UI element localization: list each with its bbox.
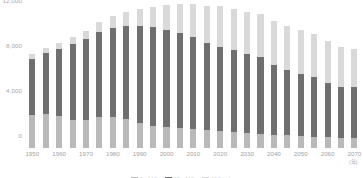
bar-segment-children: [217, 131, 223, 148]
x-axis-tick-cell: [202, 149, 211, 161]
bar-segment-working-age: [70, 44, 76, 119]
legend-swatch: [165, 177, 172, 178]
bar-segment-elderly: [338, 47, 344, 87]
population-stacked-bar-chart: 04,0008,00012,000 1950196019701980199020…: [0, 0, 363, 178]
stacked-bar: [177, 4, 183, 148]
bar-segment-children: [257, 134, 263, 148]
stacked-bar: [56, 43, 62, 148]
x-axis-tick-cell: 1960: [55, 149, 64, 161]
bar-segment-elderly: [137, 9, 143, 26]
x-axis-tick-cell: 2050: [296, 149, 305, 161]
bar-segment-children: [163, 127, 169, 148]
bar-column: [176, 13, 185, 148]
bar-segment-children: [150, 126, 156, 149]
bar-segment-elderly: [163, 5, 169, 30]
x-axis-tick-cell: 2060: [323, 149, 332, 161]
stacked-bar: [123, 12, 129, 148]
stacked-bar: [150, 7, 156, 148]
bar-segment-working-age: [325, 83, 331, 137]
stacked-bar: [325, 41, 331, 148]
bar-segment-elderly: [217, 6, 223, 47]
x-axis-unit-label: (年): [349, 158, 358, 166]
bar-segment-working-age: [96, 32, 102, 117]
bar-column: [296, 13, 305, 148]
bar-segment-children: [325, 137, 331, 148]
x-axis-tick-cell: [95, 149, 104, 161]
bar-column: [68, 13, 77, 148]
x-axis-tick-cell: [337, 149, 346, 161]
stacked-bar: [351, 49, 357, 148]
x-axis-tick-label: 2020: [213, 150, 227, 157]
stacked-bar: [231, 9, 237, 148]
bar-segment-working-age: [244, 54, 250, 134]
y-axis-tick: 4,000: [0, 87, 22, 94]
stacked-bar: [204, 6, 210, 148]
x-axis-tick-label: 2050: [294, 150, 308, 157]
stacked-bar: [217, 6, 223, 148]
bar-segment-working-age: [284, 70, 290, 135]
bar-segment-children: [190, 129, 196, 148]
x-axis-tick-label: 1990: [133, 150, 147, 157]
bar-segment-children: [70, 120, 76, 148]
bar-segment-elderly: [150, 7, 156, 28]
stacked-bar: [163, 5, 169, 148]
x-axis-tick-cell: [149, 149, 158, 161]
bar-segment-working-age: [311, 77, 317, 136]
bar-segment-children: [177, 128, 183, 148]
bar-segment-working-age: [43, 53, 49, 115]
x-axis-tick-cell: 1950: [28, 149, 37, 161]
x-axis-tick-cell: [283, 149, 292, 161]
bar-segment-elderly: [110, 16, 116, 28]
bar-segment-children: [351, 138, 357, 148]
bar-segment-working-age: [163, 30, 169, 127]
x-axis-tick-cell: 2010: [189, 149, 198, 161]
bar-segment-working-age: [110, 28, 116, 117]
bar-segment-elderly: [351, 49, 357, 87]
stacked-bar: [298, 30, 304, 148]
stacked-bar: [311, 34, 317, 148]
stacked-bar: [271, 21, 277, 148]
plot-area: [28, 13, 359, 148]
legend-swatch: [202, 177, 209, 178]
x-axis-tick-cell: [68, 149, 77, 161]
stacked-bar: [257, 14, 263, 148]
bar-segment-working-age: [177, 33, 183, 128]
bar-segment-elderly: [231, 9, 237, 50]
bar-segment-working-age: [257, 57, 263, 134]
bar-series-group: [28, 13, 359, 148]
bar-segment-children: [56, 116, 62, 148]
bar-segment-elderly: [83, 31, 89, 39]
legend-swatch: [131, 177, 138, 178]
bar-column: [95, 13, 104, 148]
x-axis-tick-label: 1980: [106, 150, 120, 157]
bar-segment-children: [29, 115, 35, 148]
bar-column: [270, 13, 279, 148]
x-axis-tick-cell: [256, 149, 265, 161]
bar-segment-working-age: [204, 43, 210, 130]
stacked-bar: [29, 54, 35, 148]
bar-segment-children: [244, 133, 250, 148]
bar-segment-elderly: [70, 37, 76, 44]
bar-column: [310, 13, 319, 148]
x-axis-tick-cell: 1970: [82, 149, 91, 161]
bar-segment-elderly: [284, 26, 290, 70]
bar-column: [229, 13, 238, 148]
legend-label: 65歳以上: [211, 175, 232, 178]
bar-segment-elderly: [204, 6, 210, 44]
x-axis-tick-cell: [41, 149, 50, 161]
y-axis-tick: 0: [0, 132, 22, 139]
x-axis-tick-cell: 2040: [270, 149, 279, 161]
bar-segment-working-age: [83, 39, 89, 120]
bar-segment-working-age: [231, 50, 237, 132]
bar-column: [41, 13, 50, 148]
bar-segment-working-age: [338, 87, 344, 138]
bar-segment-children: [43, 114, 49, 148]
legend-item: 0〜14歳: [131, 175, 158, 178]
x-axis-tick-cell: 1980: [109, 149, 118, 161]
x-axis-tick-cell: 2030: [243, 149, 252, 161]
bar-segment-working-age: [123, 26, 129, 119]
x-axis-tick-label: 2040: [267, 150, 281, 157]
stacked-bar: [70, 37, 76, 148]
bar-column: [323, 13, 332, 148]
bar-segment-children: [96, 117, 102, 148]
